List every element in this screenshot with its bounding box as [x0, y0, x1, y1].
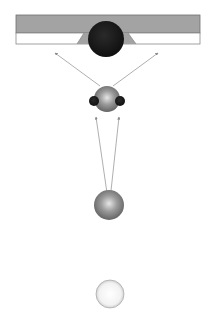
line-left	[96, 117, 108, 200]
satellite-right	[115, 96, 125, 106]
arrow-up-left	[55, 53, 100, 86]
empty-sphere	[96, 280, 124, 308]
line-right	[110, 117, 119, 200]
diagram-canvas	[0, 0, 210, 321]
satellite-left	[89, 96, 99, 106]
arrow-up-right	[113, 53, 158, 86]
target-sphere	[88, 21, 124, 57]
source-sphere	[94, 190, 124, 220]
